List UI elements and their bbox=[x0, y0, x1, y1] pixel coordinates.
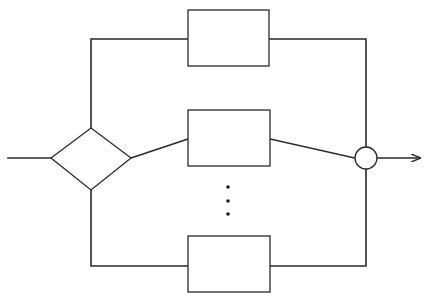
branch-middle-connector bbox=[131, 139, 188, 158]
diagram-canvas bbox=[0, 0, 428, 302]
branch-bottom-connector bbox=[91, 190, 188, 266]
vertical-ellipsis-icon bbox=[226, 185, 230, 216]
branch-top-connector bbox=[91, 39, 188, 128]
block-middle bbox=[188, 110, 270, 166]
block-top bbox=[188, 10, 269, 66]
block-bottom bbox=[188, 236, 270, 292]
merge-bottom-connector bbox=[269, 169, 366, 266]
decision-diamond bbox=[51, 128, 131, 190]
merge-middle-connector bbox=[270, 139, 355, 158]
merge-top-connector bbox=[269, 39, 366, 147]
flow-diagram bbox=[0, 0, 428, 302]
summing-junction bbox=[355, 147, 377, 169]
